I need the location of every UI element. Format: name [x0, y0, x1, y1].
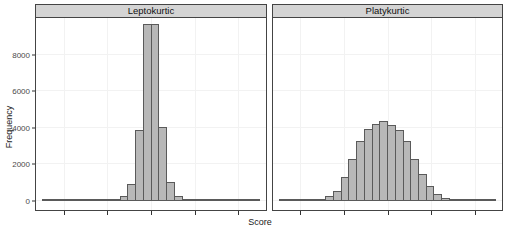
plot-area-platykurtic	[272, 18, 503, 211]
facet-panel-leptokurtic: Leptokurtic	[35, 4, 267, 211]
histogram-bar	[251, 199, 260, 201]
faceted-histogram-figure: Frequency 8000 6000 4000 2000 0 Leptokur…	[0, 0, 510, 237]
x-axis-title: Score	[35, 217, 485, 227]
y-tick: 4000	[12, 124, 35, 133]
facet-strip-title: Leptokurtic	[128, 6, 174, 16]
x-tick-mark	[107, 211, 108, 215]
facet-strip-platykurtic: Platykurtic	[272, 4, 503, 18]
x-tick-mark	[238, 211, 239, 215]
y-tick-label: 8000	[12, 51, 30, 60]
facet-strip-title: Platykurtic	[366, 6, 410, 16]
y-tick: 2000	[12, 160, 35, 169]
x-tick-mark	[151, 211, 152, 215]
x-tick-mark	[388, 211, 389, 215]
y-tick-label: 4000	[12, 124, 30, 133]
y-tick: 8000	[12, 51, 35, 60]
histogram-bars	[279, 121, 496, 201]
y-tick-label: 0	[26, 197, 30, 206]
facet-panel-platykurtic: Platykurtic	[272, 4, 503, 211]
x-tick-mark	[300, 211, 301, 215]
y-tick-label: 6000	[12, 87, 30, 96]
y-axis: 8000 6000 4000 2000 0	[0, 19, 35, 212]
facet-strip-leptokurtic: Leptokurtic	[35, 4, 267, 18]
histogram-bar	[487, 199, 496, 201]
y-tick-label: 2000	[12, 160, 30, 169]
y-tick: 6000	[12, 87, 35, 96]
x-tick-mark	[195, 211, 196, 215]
x-tick-mark	[475, 211, 476, 215]
panels-row: Leptokurtic Platykurtic	[35, 4, 503, 211]
histogram-bars	[42, 24, 260, 201]
y-tick: 0	[26, 197, 35, 206]
x-tick-mark	[431, 211, 432, 215]
plot-area-leptokurtic	[35, 18, 267, 211]
x-tick-mark	[344, 211, 345, 215]
x-tick-mark	[64, 211, 65, 215]
